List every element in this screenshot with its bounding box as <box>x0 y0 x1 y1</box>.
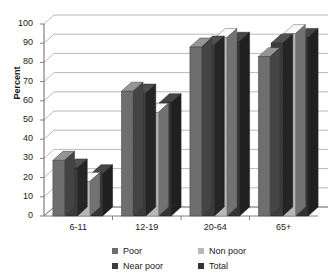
x-axis-category-label: 12-19 <box>117 222 177 232</box>
legend-swatch-non-poor <box>198 248 204 254</box>
y-axis-tick-label: 40 <box>11 133 33 143</box>
y-axis-tick-label: 90 <box>11 37 33 47</box>
legend-swatch-poor <box>112 248 118 254</box>
legend-label-total: Total <box>209 261 228 271</box>
legend-item-total: Total <box>198 261 298 271</box>
bar-chart: Percent Poor Non poor Near poor Total 01… <box>0 0 335 280</box>
chart-plot-area <box>0 0 335 280</box>
legend-label-near-poor: Near poor <box>123 261 163 271</box>
y-axis-tick-label: 10 <box>11 191 33 201</box>
y-axis-tick-label: 60 <box>11 95 33 105</box>
y-axis-tick-label: 50 <box>11 114 33 124</box>
y-axis-tick-label: 30 <box>11 152 33 162</box>
legend-item-poor: Poor <box>112 246 198 256</box>
legend-item-near-poor: Near poor <box>112 261 198 271</box>
y-axis-tick-label: 0 <box>11 210 33 220</box>
legend-row: Near poor Total <box>112 258 302 273</box>
y-axis-tick-label: 80 <box>11 56 33 66</box>
legend-swatch-near-poor <box>112 263 118 269</box>
y-axis-tick-label: 70 <box>11 76 33 86</box>
y-axis-tick-label: 20 <box>11 172 33 182</box>
y-axis-tick-label: 100 <box>11 18 33 28</box>
legend-label-non-poor: Non poor <box>209 246 246 256</box>
x-axis-category-label: 6-11 <box>48 222 108 232</box>
legend-swatch-total <box>198 263 204 269</box>
chart-legend: Poor Non poor Near poor Total <box>112 243 302 273</box>
x-axis-category-label: 65+ <box>254 222 314 232</box>
x-axis-category-label: 20-64 <box>185 222 245 232</box>
legend-item-non-poor: Non poor <box>198 246 298 256</box>
legend-label-poor: Poor <box>123 246 142 256</box>
legend-row: Poor Non poor <box>112 243 302 258</box>
